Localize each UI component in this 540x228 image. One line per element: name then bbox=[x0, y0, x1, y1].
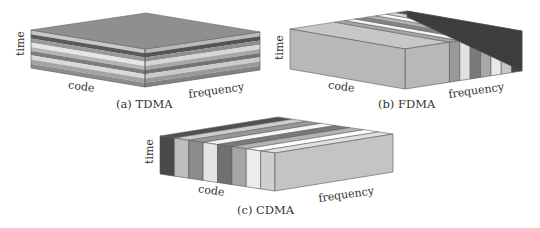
tdma-time-label: time bbox=[14, 31, 27, 56]
cdma-slot-front-1 bbox=[174, 138, 188, 178]
fdma-caption: (b) FDMA bbox=[378, 97, 436, 111]
cdma-slot-front-6 bbox=[246, 149, 260, 189]
panel-tdma: time code frequency (a) TDMA bbox=[14, 13, 260, 111]
tdma-caption: (a) TDMA bbox=[116, 97, 173, 111]
fdma-box bbox=[290, 11, 522, 89]
panel-cdma: time code frequency (c) CDMA bbox=[143, 117, 393, 217]
cdma-slot-front-7 bbox=[261, 151, 275, 191]
cdma-slot-front-0 bbox=[160, 136, 174, 176]
cdma-slot-front-4 bbox=[218, 145, 232, 185]
tdma-box bbox=[31, 13, 260, 87]
tdma-code-label: code bbox=[67, 78, 95, 95]
fdma-frequency-label: frequency bbox=[448, 80, 506, 101]
cdma-time-label: time bbox=[143, 139, 156, 164]
cdma-frequency-label: frequency bbox=[318, 184, 376, 205]
cdma-caption: (c) CDMA bbox=[237, 203, 295, 217]
fdma-slot-front-0 bbox=[405, 42, 449, 89]
cdma-slot-front-2 bbox=[189, 140, 203, 180]
cdma-slot-front-5 bbox=[232, 147, 246, 187]
panel-fdma: time code frequency (b) FDMA bbox=[273, 11, 522, 111]
fdma-code-label: code bbox=[327, 78, 355, 95]
cdma-code-label: code bbox=[197, 182, 225, 199]
cdma-slot-front-3 bbox=[203, 142, 217, 182]
cdma-box bbox=[160, 117, 393, 191]
multiple-access-figure: time code frequency (a) TDMA time code f… bbox=[0, 0, 540, 228]
tdma-frequency-label: frequency bbox=[188, 80, 246, 101]
fdma-time-label: time bbox=[273, 35, 286, 60]
fdma-slot-front-1 bbox=[449, 41, 459, 83]
figure-canvas: time code frequency (a) TDMA time code f… bbox=[0, 0, 540, 228]
